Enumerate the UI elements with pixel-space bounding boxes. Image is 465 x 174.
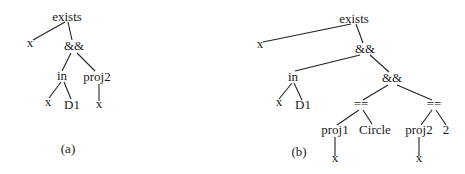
tree-node: x [45, 94, 52, 109]
tree-node: proj2 [405, 122, 432, 137]
tree-edge [295, 55, 360, 71]
tree-edge [263, 24, 351, 42]
tree-node: x [332, 150, 339, 165]
tree-a: existsx&&inproj2xD1x(a) [27, 9, 111, 156]
tree-node: x [96, 96, 103, 111]
tree-node: x [276, 94, 283, 109]
tree-node: x [416, 150, 423, 165]
tree-node: exists [339, 11, 369, 26]
tree-node: exists [52, 9, 82, 24]
tree-node: == [427, 96, 442, 111]
tree-node: D1 [64, 97, 80, 112]
tree-node: && [64, 38, 84, 53]
tree-node: Circle [359, 122, 391, 137]
tree-node: D1 [295, 97, 311, 112]
tree-node: && [355, 41, 375, 56]
tree-edge [33, 22, 65, 40]
figure-caption-b: (b) [291, 144, 306, 159]
tree-node: in [288, 69, 299, 84]
expression-tree-figure: existsx&&inproj2xD1x(a) existsx&&in&&xD1… [0, 0, 465, 174]
tree-node: == [354, 96, 369, 111]
figure-caption-a: (a) [61, 141, 75, 156]
tree-node: in [57, 68, 68, 83]
tree-node: proj1 [321, 122, 348, 137]
tree-node: x [27, 35, 34, 50]
tree-node: 2 [443, 122, 450, 137]
tree-node: proj2 [83, 69, 110, 84]
tree-node: && [382, 70, 402, 85]
tree-node: x [257, 36, 264, 51]
tree-b: existsx&&in&&xD1====proj1Circleproj22xx(… [257, 11, 450, 165]
